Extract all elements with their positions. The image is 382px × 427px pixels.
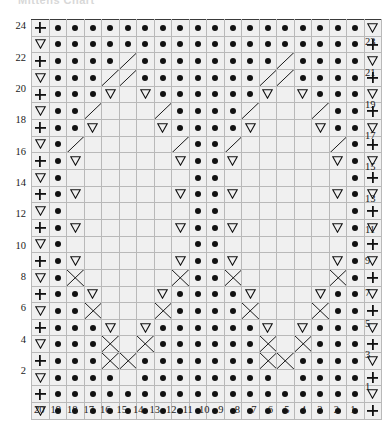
chart-cell[interactable] (312, 269, 330, 286)
chart-cell[interactable] (32, 203, 50, 220)
chart-cell[interactable] (67, 186, 85, 203)
chart-cell[interactable] (207, 69, 225, 86)
chart-cell[interactable] (277, 186, 295, 203)
chart-cell[interactable] (294, 253, 312, 270)
chart-cell[interactable] (154, 269, 172, 286)
chart-cell[interactable] (294, 53, 312, 70)
chart-cell[interactable] (189, 20, 207, 37)
chart-cell[interactable] (84, 103, 102, 120)
chart-cell[interactable] (137, 353, 155, 370)
chart-cell[interactable] (364, 303, 382, 320)
chart-cell[interactable] (32, 269, 50, 286)
chart-cell[interactable] (259, 286, 277, 303)
chart-cell[interactable] (329, 36, 347, 53)
chart-cell[interactable] (172, 303, 190, 320)
chart-cell[interactable] (137, 303, 155, 320)
chart-cell[interactable] (84, 336, 102, 353)
chart-cell[interactable] (84, 20, 102, 37)
chart-cell[interactable] (224, 119, 242, 136)
chart-cell[interactable] (242, 269, 260, 286)
chart-cell[interactable] (102, 36, 120, 53)
chart-cell[interactable] (189, 169, 207, 186)
chart-cell[interactable] (154, 219, 172, 236)
chart-cell[interactable] (189, 369, 207, 386)
chart-cell[interactable] (84, 86, 102, 103)
chart-cell[interactable] (67, 386, 85, 403)
chart-cell[interactable] (207, 219, 225, 236)
chart-cell[interactable] (102, 86, 120, 103)
chart-cell[interactable] (294, 219, 312, 236)
chart-cell[interactable] (242, 336, 260, 353)
chart-cell[interactable] (67, 286, 85, 303)
chart-cell[interactable] (172, 53, 190, 70)
chart-cell[interactable] (102, 119, 120, 136)
chart-cell[interactable] (137, 36, 155, 53)
chart-cell[interactable] (207, 336, 225, 353)
chart-cell[interactable] (259, 69, 277, 86)
chart-cell[interactable] (172, 386, 190, 403)
chart-cell[interactable] (84, 236, 102, 253)
chart-cell[interactable] (154, 69, 172, 86)
chart-cell[interactable] (49, 36, 67, 53)
chart-cell[interactable] (49, 303, 67, 320)
chart-cell[interactable] (137, 269, 155, 286)
chart-cell[interactable] (364, 203, 382, 220)
chart-cell[interactable] (242, 286, 260, 303)
chart-cell[interactable] (154, 20, 172, 37)
chart-cell[interactable] (32, 20, 50, 37)
chart-cell[interactable] (67, 53, 85, 70)
chart-cell[interactable] (119, 353, 137, 370)
chart-cell[interactable] (347, 303, 365, 320)
chart-cell[interactable] (329, 136, 347, 153)
chart-cell[interactable] (224, 203, 242, 220)
chart-cell[interactable] (172, 286, 190, 303)
chart-cell[interactable] (189, 219, 207, 236)
chart-cell[interactable] (137, 203, 155, 220)
chart-cell[interactable] (329, 303, 347, 320)
chart-cell[interactable] (277, 69, 295, 86)
chart-cell[interactable] (102, 136, 120, 153)
chart-cell[interactable] (49, 103, 67, 120)
chart-cell[interactable] (189, 253, 207, 270)
chart-cell[interactable] (347, 20, 365, 37)
chart-cell[interactable] (102, 336, 120, 353)
chart-cell[interactable] (119, 336, 137, 353)
chart-cell[interactable] (312, 103, 330, 120)
chart-cell[interactable] (312, 219, 330, 236)
chart-cell[interactable] (172, 219, 190, 236)
chart-cell[interactable] (294, 103, 312, 120)
chart-cell[interactable] (312, 353, 330, 370)
chart-cell[interactable] (189, 36, 207, 53)
chart-cell[interactable] (102, 53, 120, 70)
chart-cell[interactable] (49, 153, 67, 170)
chart-cell[interactable] (347, 236, 365, 253)
chart-cell[interactable] (49, 136, 67, 153)
chart-cell[interactable] (67, 253, 85, 270)
chart-cell[interactable] (312, 286, 330, 303)
chart-cell[interactable] (137, 369, 155, 386)
chart-cell[interactable] (119, 86, 137, 103)
chart-cell[interactable] (32, 319, 50, 336)
chart-cell[interactable] (259, 269, 277, 286)
chart-cell[interactable] (242, 253, 260, 270)
chart-cell[interactable] (84, 369, 102, 386)
chart-cell[interactable] (67, 69, 85, 86)
chart-cell[interactable] (224, 20, 242, 37)
chart-cell[interactable] (347, 119, 365, 136)
chart-cell[interactable] (32, 36, 50, 53)
chart-cell[interactable] (172, 369, 190, 386)
chart-cell[interactable] (32, 153, 50, 170)
chart-cell[interactable] (67, 36, 85, 53)
chart-cell[interactable] (137, 169, 155, 186)
chart-cell[interactable] (312, 20, 330, 37)
chart-cell[interactable] (189, 303, 207, 320)
chart-cell[interactable] (347, 336, 365, 353)
chart-cell[interactable] (49, 69, 67, 86)
chart-cell[interactable] (119, 203, 137, 220)
chart-cell[interactable] (172, 169, 190, 186)
chart-cell[interactable] (172, 36, 190, 53)
chart-cell[interactable] (119, 236, 137, 253)
chart-cell[interactable] (259, 86, 277, 103)
chart-cell[interactable] (137, 236, 155, 253)
chart-cell[interactable] (312, 153, 330, 170)
